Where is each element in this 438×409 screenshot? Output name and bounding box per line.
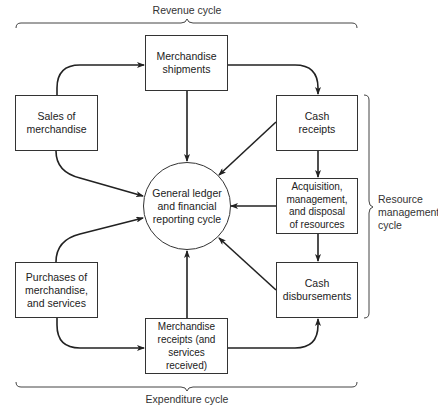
edge-disbursements-to-ledger — [219, 238, 276, 290]
edge-purchases-to-ledger — [56, 218, 143, 262]
node-merchandise-shipments: Merchandise shipments — [145, 35, 228, 91]
node-purchases: Purchases of merchandise, and services — [15, 262, 98, 318]
edge-shipments-to-cash-receipts — [228, 65, 318, 94]
node-cash-disbursements: Cash disbursements — [276, 262, 358, 318]
revenue-cycle-brace — [16, 19, 357, 28]
node-merchandise-receipts: Merchandise receipts (and services recei… — [145, 318, 228, 374]
revenue-cycle-label: Revenue cycle — [137, 4, 237, 17]
node-general-ledger: General ledger and financial reporting c… — [143, 162, 231, 250]
expenditure-cycle-brace — [16, 382, 357, 391]
edge-receipts-to-disbursements — [228, 319, 318, 348]
node-cash-receipts: Cash receipts — [276, 95, 358, 151]
resource-management-cycle-label: Resource management cycle — [378, 193, 438, 232]
edge-sales-to-ledger — [56, 151, 143, 196]
node-acquisition-management-disposal: Acquisition, management, and disposal of… — [276, 178, 358, 234]
edge-sales-to-shipments — [57, 65, 144, 95]
edge-cash-receipts-to-ledger — [219, 122, 276, 175]
resource-management-cycle-brace — [364, 95, 373, 318]
node-sales-of-merchandise: Sales of merchandise — [15, 95, 98, 151]
expenditure-cycle-label: Expenditure cycle — [127, 393, 247, 406]
edge-purchases-to-receipts — [57, 318, 144, 348]
